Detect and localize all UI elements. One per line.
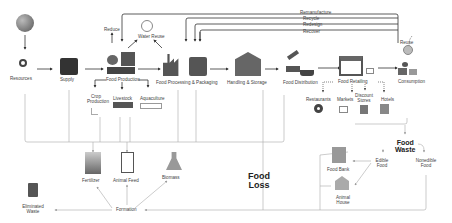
label-food-distribution: Food Distribution [283, 80, 318, 85]
earth-icon [16, 14, 34, 32]
food-waste-title: Food Waste [395, 139, 415, 154]
reuse-icon [403, 45, 413, 55]
label-livestock: Livestock [113, 96, 132, 101]
animal-feed-icon [121, 152, 134, 173]
label-hotels: Hotels [381, 97, 394, 102]
label-biomass: Biomass [162, 175, 180, 180]
food-bank-icon [332, 147, 346, 163]
fertilizer-icon [85, 152, 101, 174]
label-eliminated-waste: Eliminated Waste [22, 204, 44, 214]
label-recycle: Recycle [303, 16, 319, 21]
label-markets: Markets [337, 97, 353, 102]
label-remanufacture: Remanufacture [300, 10, 331, 15]
label-food-processing: Food Processing & Packaging [156, 80, 218, 85]
food-loss-title: Food Loss [248, 172, 270, 191]
market-icon [339, 106, 348, 113]
label-aquaculture: Aquaculture [140, 96, 165, 101]
label-animal-house: Animal House [333, 195, 353, 205]
label-reuse: Reuse [400, 40, 413, 45]
bag-icon [360, 105, 368, 114]
food-production-icon [107, 52, 137, 76]
water-reuse-icon [141, 20, 153, 32]
supply-icon [60, 58, 78, 75]
label-crop-production: Crop Production [87, 94, 105, 104]
trash-icon [28, 183, 38, 197]
resources-icon [17, 55, 31, 66]
label-formation: Formation [116, 207, 137, 212]
label-restaurants: Restaurants [306, 97, 331, 102]
label-resources: Resources [10, 76, 32, 81]
label-recover: Recover [303, 29, 320, 34]
hotel-icon [380, 104, 389, 114]
packaging-icon [189, 57, 207, 76]
truck-icon [286, 66, 300, 72]
fish-icon [140, 103, 162, 109]
label-redesign: Redesign [303, 22, 322, 27]
label-edible-food: Edible Food [375, 158, 389, 168]
cart-icon [366, 68, 374, 74]
label-food-production: Food Production [106, 77, 140, 82]
label-discount-stores: Discount Stores [355, 93, 373, 103]
label-food-retailing: Food Retailing [338, 79, 368, 84]
livestock-icon [113, 102, 133, 108]
consumption-icon [398, 62, 418, 75]
label-consumption: Consumption [398, 79, 425, 84]
label-fertilizer: Fertilizer [82, 178, 100, 183]
donut-icon [314, 104, 323, 113]
label-water-reuse: Water Reuse [138, 34, 165, 39]
crop-icon [91, 108, 98, 115]
store-icon [339, 56, 363, 76]
label-food-bank: Food Bank [327, 167, 349, 172]
label-nonedible-food: Nonedible Food [414, 158, 438, 168]
label-reduce: Reduce [104, 27, 120, 32]
ship-icon [300, 70, 314, 76]
label-handling-storage: Handling & Storage [227, 80, 267, 85]
label-supply: Supply [60, 77, 74, 82]
label-animal-feed: Animal Feed [113, 178, 139, 183]
